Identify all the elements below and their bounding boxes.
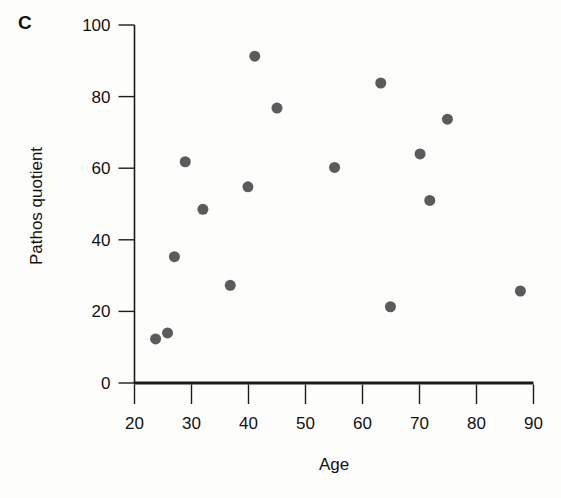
scatter-point	[162, 327, 173, 338]
scatter-point	[249, 51, 260, 62]
scatter-point	[424, 195, 435, 206]
tick-marks	[119, 25, 534, 404]
x-tick-label: 30	[182, 414, 201, 433]
x-tick-label: 40	[239, 414, 258, 433]
y-tick-label: 100	[82, 16, 110, 35]
scatter-point	[415, 148, 426, 159]
scatter-point	[375, 77, 386, 88]
plot-area: 0204060801002030405060708090	[0, 0, 561, 498]
scatter-point	[242, 181, 253, 192]
y-tick-label: 80	[92, 88, 111, 107]
x-tick-label: 50	[296, 414, 315, 433]
scatter-point	[150, 333, 161, 344]
scatter-point	[329, 162, 340, 173]
axes	[134, 25, 534, 383]
scatter-point	[272, 103, 283, 114]
scatter-point	[225, 280, 236, 291]
scatter-point	[385, 301, 396, 312]
scatter-point	[180, 156, 191, 167]
scatter-plot-figure: C Pathos quotient Age 020406080100203040…	[0, 0, 561, 498]
x-tick-label: 20	[125, 414, 144, 433]
x-tick-label: 80	[467, 414, 486, 433]
tick-labels: 0204060801002030405060708090	[82, 16, 543, 433]
x-tick-label: 60	[353, 414, 372, 433]
y-tick-label: 40	[92, 231, 111, 250]
scatter-point	[442, 114, 453, 125]
scatter-point	[197, 204, 208, 215]
y-tick-label: 20	[92, 302, 111, 321]
scatter-point	[515, 285, 526, 296]
y-tick-label: 60	[92, 159, 111, 178]
scatter-point	[169, 251, 180, 262]
data-points	[150, 51, 526, 345]
x-tick-label: 70	[410, 414, 429, 433]
x-tick-label: 90	[524, 414, 543, 433]
y-tick-label: 0	[101, 374, 110, 393]
